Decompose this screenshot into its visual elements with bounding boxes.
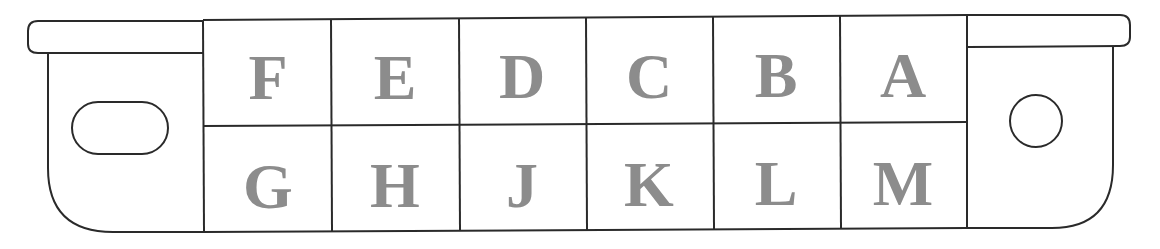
pin-M: M [873,148,933,219]
pin-F: F [248,42,287,113]
pin-B: B [755,40,798,111]
pin-J: J [506,150,538,221]
oval-slot-icon [72,102,168,154]
pin-H: H [370,150,420,221]
pin-C: C [626,41,672,112]
pin-G: G [243,151,293,222]
pin-A: A [880,40,926,111]
connector-diagram: F E D C B A G H J K L M [0,0,1160,249]
right-ear [967,15,1130,228]
pin-grid: F E D C B A G H J K L M [203,15,967,232]
pin-K: K [624,149,674,220]
pin-E: E [374,42,417,113]
left-ear [28,21,204,232]
round-hole-icon [1010,95,1062,147]
pin-D: D [499,41,545,112]
pin-L: L [755,148,798,219]
